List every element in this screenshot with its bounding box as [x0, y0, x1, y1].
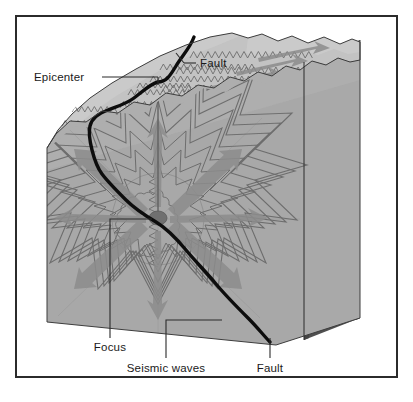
- label-fault-top: Fault: [200, 57, 227, 69]
- label-focus: Focus: [94, 341, 126, 353]
- label-epicenter: Epicenter: [34, 71, 84, 83]
- figure-root: Epicenter Fault Focus Seismic waves Faul…: [0, 0, 413, 402]
- label-seismic-waves: Seismic waves: [127, 362, 206, 374]
- label-fault-bottom: Fault: [257, 362, 284, 374]
- earthquake-block-diagram: Epicenter Fault Focus Seismic waves Faul…: [0, 0, 413, 402]
